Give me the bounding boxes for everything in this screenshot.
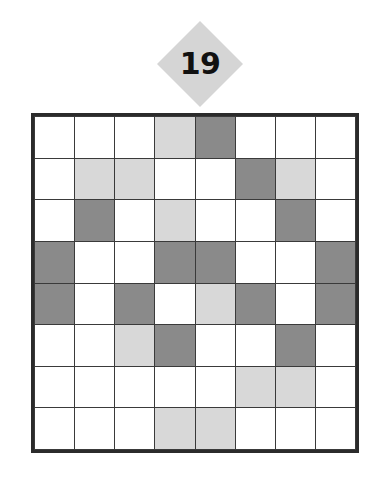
grid-cell-r6-c3[interactable] xyxy=(115,325,155,367)
grid-cell-r2-c7[interactable] xyxy=(275,158,315,200)
grid-cell-r8-c2[interactable] xyxy=(75,408,115,450)
grid-cell-r5-c2[interactable] xyxy=(75,283,115,325)
grid-cell-r2-c3[interactable] xyxy=(115,158,155,200)
grid-cell-r8-c8[interactable] xyxy=(315,408,355,450)
grid-cell-r7-c1[interactable] xyxy=(35,366,75,408)
grid-cell-r6-c7[interactable] xyxy=(275,325,315,367)
grid-cell-r2-c8[interactable] xyxy=(315,158,355,200)
grid-cell-r1-c1[interactable] xyxy=(35,117,75,159)
grid-row xyxy=(35,158,356,200)
grid-cell-r7-c3[interactable] xyxy=(115,366,155,408)
grid-cell-r1-c2[interactable] xyxy=(75,117,115,159)
grid-cell-r4-c8[interactable] xyxy=(315,241,355,283)
grid-cell-r5-c5[interactable] xyxy=(195,283,235,325)
grid-cell-r1-c3[interactable] xyxy=(115,117,155,159)
grid-cell-r4-c4[interactable] xyxy=(155,241,195,283)
grid-cell-r7-c2[interactable] xyxy=(75,366,115,408)
grid-cell-r1-c4[interactable] xyxy=(155,117,195,159)
grid-row xyxy=(35,241,356,283)
grid-cell-r7-c7[interactable] xyxy=(275,366,315,408)
grid-cell-r4-c5[interactable] xyxy=(195,241,235,283)
grid-cell-r8-c7[interactable] xyxy=(275,408,315,450)
grid-cell-r5-c6[interactable] xyxy=(235,283,275,325)
grid-cell-r7-c8[interactable] xyxy=(315,366,355,408)
grid-cell-r3-c7[interactable] xyxy=(275,200,315,242)
grid-cell-r4-c3[interactable] xyxy=(115,241,155,283)
grid-cell-r5-c1[interactable] xyxy=(35,283,75,325)
grid-cell-r8-c6[interactable] xyxy=(235,408,275,450)
grid-row xyxy=(35,366,356,408)
grid-cell-r8-c5[interactable] xyxy=(195,408,235,450)
grid-cell-r4-c6[interactable] xyxy=(235,241,275,283)
grid-cell-r4-c2[interactable] xyxy=(75,241,115,283)
puzzle-grid-table xyxy=(34,116,356,450)
grid-cell-r5-c4[interactable] xyxy=(155,283,195,325)
grid-cell-r4-c1[interactable] xyxy=(35,241,75,283)
grid-cell-r6-c6[interactable] xyxy=(235,325,275,367)
grid-cell-r3-c5[interactable] xyxy=(195,200,235,242)
puzzle-number-badge: 19 xyxy=(156,20,244,108)
grid-row xyxy=(35,325,356,367)
grid-cell-r2-c5[interactable] xyxy=(195,158,235,200)
grid-cell-r3-c2[interactable] xyxy=(75,200,115,242)
grid-cell-r5-c3[interactable] xyxy=(115,283,155,325)
grid-row xyxy=(35,200,356,242)
grid-cell-r6-c2[interactable] xyxy=(75,325,115,367)
grid-cell-r6-c8[interactable] xyxy=(315,325,355,367)
grid-cell-r1-c5[interactable] xyxy=(195,117,235,159)
grid-cell-r8-c1[interactable] xyxy=(35,408,75,450)
grid-row xyxy=(35,408,356,450)
grid-cell-r2-c1[interactable] xyxy=(35,158,75,200)
grid-row xyxy=(35,117,356,159)
grid-cell-r6-c5[interactable] xyxy=(195,325,235,367)
grid-cell-r7-c4[interactable] xyxy=(155,366,195,408)
grid-cell-r7-c5[interactable] xyxy=(195,366,235,408)
grid-cell-r3-c8[interactable] xyxy=(315,200,355,242)
grid-cell-r3-c4[interactable] xyxy=(155,200,195,242)
grid-cell-r3-c1[interactable] xyxy=(35,200,75,242)
puzzle-number-label: 19 xyxy=(156,20,244,108)
puzzle-root: 19 xyxy=(0,0,388,483)
grid-cell-r2-c6[interactable] xyxy=(235,158,275,200)
grid-cell-r7-c6[interactable] xyxy=(235,366,275,408)
grid-cell-r3-c6[interactable] xyxy=(235,200,275,242)
grid-cell-r2-c4[interactable] xyxy=(155,158,195,200)
puzzle-grid[interactable] xyxy=(31,113,359,453)
grid-cell-r8-c3[interactable] xyxy=(115,408,155,450)
grid-cell-r2-c2[interactable] xyxy=(75,158,115,200)
grid-cell-r5-c8[interactable] xyxy=(315,283,355,325)
grid-cell-r8-c4[interactable] xyxy=(155,408,195,450)
grid-cell-r3-c3[interactable] xyxy=(115,200,155,242)
grid-cell-r5-c7[interactable] xyxy=(275,283,315,325)
grid-cell-r1-c8[interactable] xyxy=(315,117,355,159)
grid-cell-r6-c4[interactable] xyxy=(155,325,195,367)
grid-cell-r4-c7[interactable] xyxy=(275,241,315,283)
grid-cell-r1-c6[interactable] xyxy=(235,117,275,159)
grid-row xyxy=(35,283,356,325)
grid-cell-r6-c1[interactable] xyxy=(35,325,75,367)
grid-cell-r1-c7[interactable] xyxy=(275,117,315,159)
